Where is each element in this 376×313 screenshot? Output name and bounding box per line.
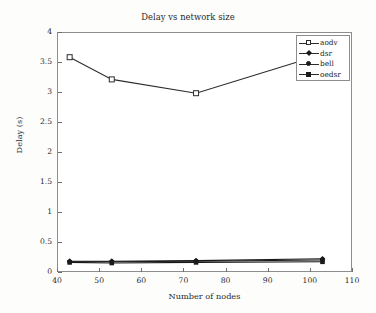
legend-marker-square-open-icon bbox=[299, 38, 319, 48]
y-tick-label: 3 bbox=[26, 87, 52, 96]
y-tick-label: 3.5 bbox=[26, 57, 52, 66]
legend-label-aodv: aodv bbox=[319, 38, 338, 48]
y-tick-label: 2.5 bbox=[26, 117, 52, 126]
x-tick-label: 110 bbox=[340, 276, 364, 285]
x-tick-label: 90 bbox=[256, 276, 280, 285]
y-tick-label: 0.5 bbox=[26, 237, 52, 246]
chart-legend: aodv dsr bell oedsr bbox=[296, 35, 350, 81]
x-tick-label: 50 bbox=[87, 276, 111, 285]
x-axis-label: Number of nodes bbox=[57, 291, 352, 301]
legend-item-oedsr: oedsr bbox=[297, 70, 349, 81]
legend-item-bell: bell bbox=[297, 59, 349, 70]
x-tick-label: 40 bbox=[45, 276, 69, 285]
legend-label-bell: bell bbox=[319, 59, 334, 69]
data-series-layer bbox=[67, 52, 326, 266]
y-tick-label: 1.5 bbox=[26, 177, 52, 186]
legend-item-aodv: aodv bbox=[297, 38, 349, 49]
y-tick-label: 0 bbox=[26, 267, 52, 276]
y-tick-label: 4 bbox=[26, 27, 52, 36]
y-tick-label: 2 bbox=[26, 147, 52, 156]
legend-marker-circle-icon bbox=[299, 59, 319, 69]
legend-marker-diamond-icon bbox=[299, 49, 319, 59]
chart-figure: Delay vs network size 00.511.522.533.54 … bbox=[0, 0, 376, 313]
legend-item-dsr: dsr bbox=[297, 49, 349, 60]
y-tick-label: 1 bbox=[26, 207, 52, 216]
x-tick-label: 100 bbox=[298, 276, 322, 285]
x-tick-label: 80 bbox=[214, 276, 238, 285]
x-tick-label: 70 bbox=[171, 276, 195, 285]
legend-label-oedsr: oedsr bbox=[319, 70, 341, 80]
series-aodv bbox=[67, 52, 325, 96]
legend-label-dsr: dsr bbox=[319, 49, 332, 59]
x-tick-label: 60 bbox=[129, 276, 153, 285]
legend-marker-square-filled-icon bbox=[299, 70, 319, 80]
y-axis-label: Delay (s) bbox=[14, 75, 24, 195]
